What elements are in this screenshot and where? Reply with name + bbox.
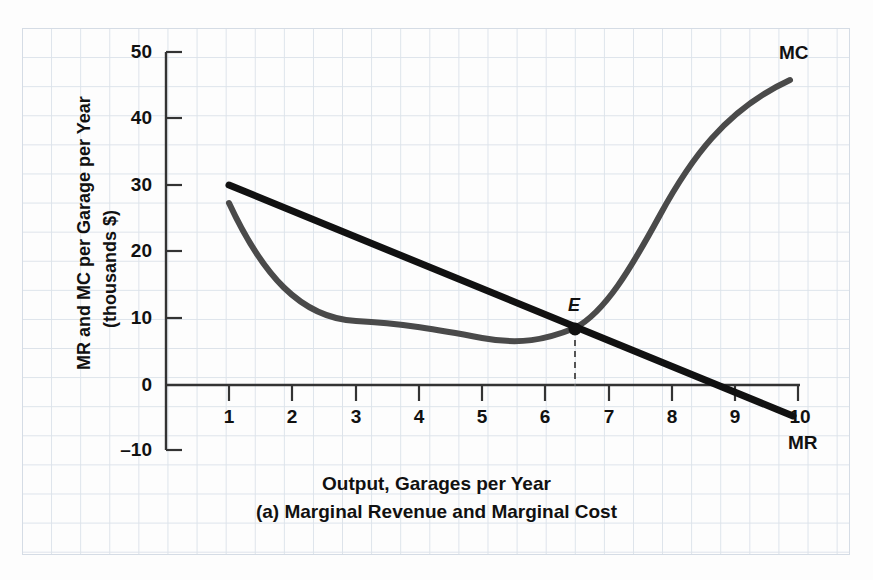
x-tick-label-10: 10 bbox=[789, 406, 810, 428]
x-tick-label-9: 9 bbox=[730, 406, 741, 428]
x-tick-label-1: 1 bbox=[224, 406, 235, 428]
x-tick-label-4: 4 bbox=[414, 406, 425, 428]
x-tick-label-7: 7 bbox=[604, 406, 615, 428]
x-axis-title: Output, Garages per Year bbox=[0, 470, 873, 498]
x-tick-label-6: 6 bbox=[540, 406, 551, 428]
y-axis-title: MR and MC per Garage per Year (thousands… bbox=[34, 60, 334, 360]
y-axis-title-line-2: (thousands $) bbox=[100, 210, 121, 328]
mr-line-label: MR bbox=[788, 432, 818, 454]
x-tick-label-3: 3 bbox=[351, 406, 362, 428]
figure-container: 50 40 30 20 10 0 –10 1 2 3 4 5 6 7 8 9 1… bbox=[0, 0, 873, 580]
y-tick-label-0: 0 bbox=[108, 374, 152, 396]
equilibrium-point-label: E bbox=[568, 295, 580, 316]
y-tick-label-minus10: –10 bbox=[96, 439, 152, 461]
equilibrium-point-marker bbox=[569, 323, 582, 336]
figure-subcaption: (a) Marginal Revenue and Marginal Cost bbox=[0, 498, 873, 526]
figure-caption: Output, Garages per Year (a) Marginal Re… bbox=[0, 470, 873, 525]
x-axis-ticks bbox=[229, 385, 798, 401]
y-axis-title-line-1: MR and MC per Garage per Year bbox=[74, 96, 95, 370]
mc-curve-label: MC bbox=[779, 42, 809, 64]
x-tick-label-8: 8 bbox=[667, 406, 678, 428]
x-tick-label-5: 5 bbox=[477, 406, 488, 428]
x-tick-label-2: 2 bbox=[287, 406, 298, 428]
